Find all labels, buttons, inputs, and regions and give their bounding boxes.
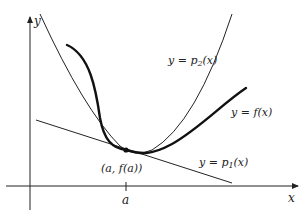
label-p1-suffix: (x) [234,156,249,169]
label-f: y = f(x) [230,106,272,119]
label-p2-prefix: y = p [167,54,197,67]
label-p2: y = p2(x) [167,54,217,68]
label-p2-suffix: (x) [203,54,218,67]
label-p1-prefix: y = p [198,156,228,169]
curve-f [67,45,246,153]
y-axis-label: y [33,14,41,28]
tick-label-a: a [122,193,129,207]
curve-p2 [40,14,232,153]
point-label: (a, f(a)) [101,162,142,175]
point-a-fa [123,147,128,152]
taylor-diagram: x y a (a, f(a)) y = p2(x) y = f(x) y = p… [0,0,308,222]
label-p1: y = p1(x) [198,156,248,170]
x-axis-label: x [288,191,295,205]
